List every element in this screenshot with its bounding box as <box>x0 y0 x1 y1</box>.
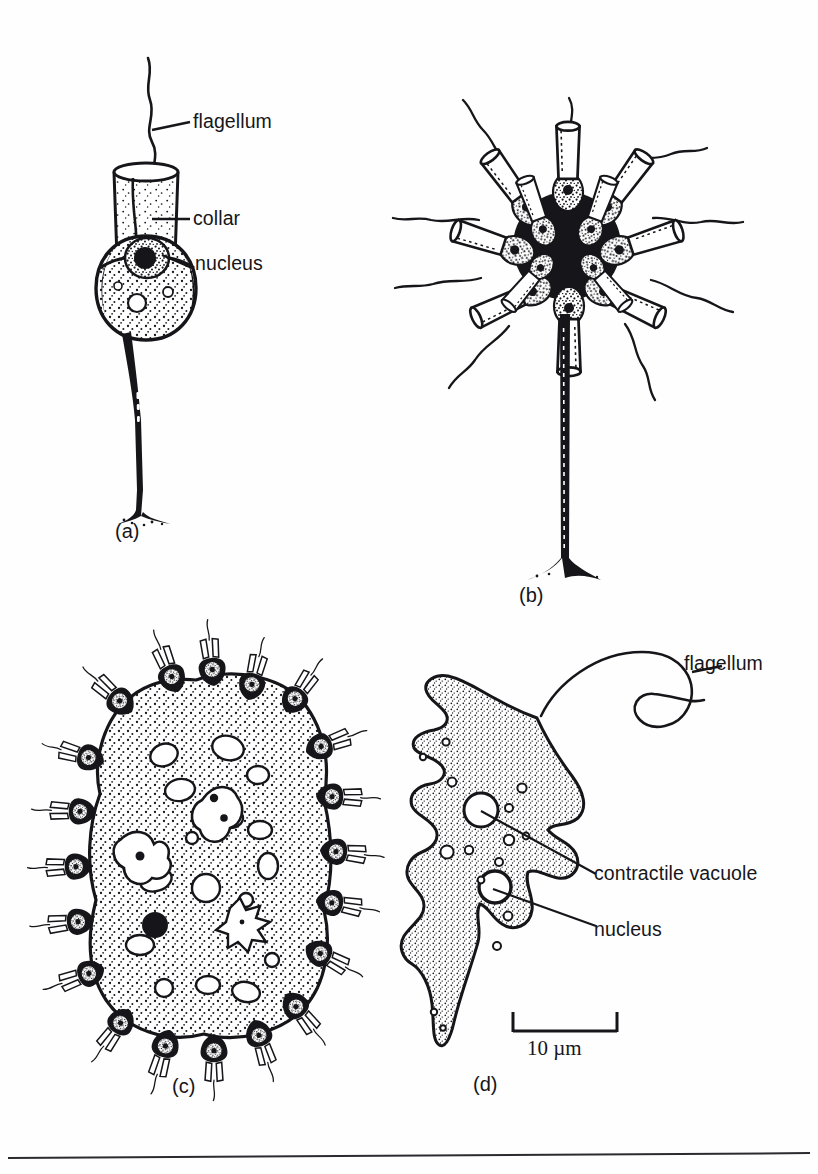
label-nucleus-a: nucleus <box>195 252 263 275</box>
panel-b-illustration <box>393 98 743 580</box>
figure-illustration <box>0 0 818 1174</box>
scale-bar-label: 10 µm <box>527 1036 582 1061</box>
panel-caption-d: (d) <box>473 1073 497 1096</box>
panel-caption-a: (a) <box>115 520 139 543</box>
panel-d-illustration <box>401 652 722 1046</box>
label-flagellum-d: flagellum <box>684 652 763 675</box>
label-contractile-vacuole-d: contractile vacuole <box>594 862 757 885</box>
panel-c-illustration <box>27 618 385 1100</box>
panel-a-illustration <box>96 58 196 526</box>
figure-sheet: flagellum collar nucleus flagellum contr… <box>0 0 818 1174</box>
label-collar-a: collar <box>193 207 240 230</box>
label-flagellum-a: flagellum <box>193 110 272 133</box>
label-nucleus-d: nucleus <box>594 918 662 941</box>
panel-caption-b: (b) <box>519 584 543 607</box>
panel-caption-c: (c) <box>172 1075 195 1098</box>
